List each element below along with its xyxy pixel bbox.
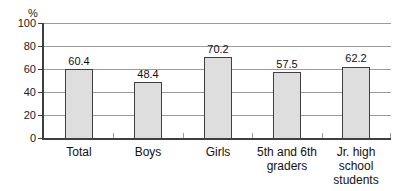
bar	[204, 57, 232, 138]
y-tick-label: 0	[0, 133, 36, 144]
bar	[134, 82, 162, 138]
x-axis-boundary-tick	[322, 133, 323, 138]
y-axis-tick	[38, 115, 43, 116]
y-tick-label: 20	[0, 110, 36, 121]
y-axis-tick	[38, 69, 43, 70]
y-tick-label: 40	[0, 87, 36, 98]
bar	[65, 69, 93, 139]
x-axis-boundary-tick	[390, 133, 391, 138]
y-tick-label: 100	[0, 18, 36, 29]
y-axis-tick	[38, 46, 43, 47]
category-label: Total	[39, 145, 119, 159]
gridline	[44, 23, 391, 24]
y-tick-label: 80	[0, 41, 36, 52]
bar-value-label: 57.5	[257, 59, 317, 70]
bar-value-label: 48.4	[118, 69, 178, 80]
x-axis-boundary-tick	[183, 133, 184, 138]
bar-chart-figure: % 02040608010060.4Total48.4Boys70.2Girls…	[0, 0, 398, 191]
category-label: Jr. high school students	[316, 145, 396, 187]
bar	[342, 67, 370, 139]
x-axis-boundary-tick	[113, 133, 114, 138]
category-label: Girls	[178, 145, 258, 159]
bar-value-label: 60.4	[49, 56, 109, 67]
bar-value-label: 62.2	[326, 53, 386, 64]
y-axis-tick	[38, 23, 43, 24]
bar	[273, 72, 301, 138]
category-label: 5th and 6th graders	[247, 145, 327, 173]
plot-area: 02040608010060.4Total48.4Boys70.2Girls57…	[42, 23, 391, 140]
y-axis-tick	[38, 92, 43, 93]
x-axis-boundary-tick	[252, 133, 253, 138]
y-tick-label: 60	[0, 64, 36, 75]
category-label: Boys	[108, 145, 188, 159]
y-axis-tick	[38, 138, 43, 139]
bar-value-label: 70.2	[188, 44, 248, 55]
